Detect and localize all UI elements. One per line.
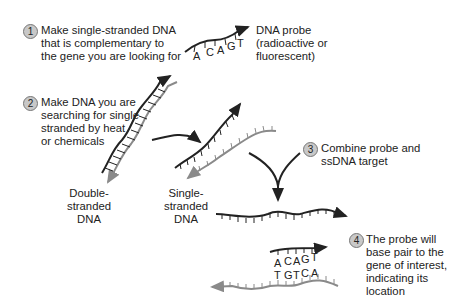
target-base: C	[301, 267, 309, 279]
target-base: T	[274, 269, 281, 281]
ssdna-target	[216, 209, 346, 223]
probe-base: G	[227, 40, 236, 52]
dna-diagram: A C A G T A C A G T T G T	[0, 0, 455, 308]
probe-base: A	[193, 50, 201, 62]
dna-probe-strand: A C A G T	[185, 27, 248, 62]
probe-base: A	[274, 257, 282, 269]
combine-arrow-right	[278, 153, 300, 200]
single-strand-dark	[175, 104, 240, 169]
target-base: G	[284, 269, 293, 281]
probe-base: A	[293, 255, 301, 267]
denature-arrow	[152, 135, 200, 142]
probe-base: C	[206, 46, 214, 58]
probe-base: T	[237, 37, 244, 49]
target-base: T	[293, 269, 300, 281]
combine-arrow-left	[249, 153, 278, 186]
probe-base: T	[311, 251, 318, 263]
probe-base: C	[284, 255, 292, 267]
probe-base: A	[217, 44, 225, 56]
double-stranded-dna	[102, 76, 177, 182]
probe-base: G	[301, 253, 310, 265]
